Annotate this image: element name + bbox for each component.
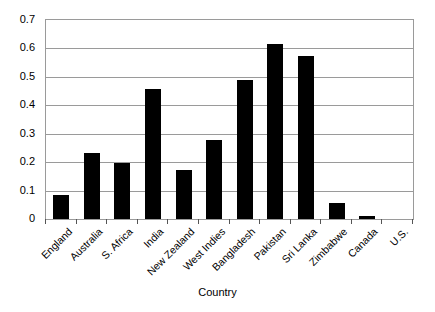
y-axis-tick-label: 0.4 [20, 99, 35, 110]
bar[interactable] [145, 89, 161, 219]
bar-slot [321, 20, 352, 219]
bar[interactable] [176, 170, 192, 219]
plot-area [45, 19, 414, 220]
y-axis-tick-labels: 0.70.60.50.40.30.20.10 [0, 0, 40, 312]
bar[interactable] [298, 56, 314, 219]
y-axis-tick-label: 0 [29, 213, 35, 224]
bar[interactable] [84, 153, 100, 219]
bar[interactable] [114, 163, 130, 219]
bar-slot [199, 20, 230, 219]
bar-slot [168, 20, 199, 219]
bar-slot [138, 20, 169, 219]
bar-slot [46, 20, 77, 219]
y-axis-tick-label: 0.5 [20, 70, 35, 81]
x-axis-category-label: U.S. [388, 226, 410, 248]
bar-chart: 0.70.60.50.40.30.20.10 EnglandAustraliaS… [0, 0, 435, 312]
bar-slot [107, 20, 138, 219]
y-axis-tick-label: 0.6 [20, 42, 35, 53]
bar-slot [77, 20, 108, 219]
x-axis-category-label: Canada [346, 226, 380, 260]
bar-series [46, 20, 413, 219]
bar-slot [291, 20, 322, 219]
bar[interactable] [206, 140, 222, 219]
x-axis-category-label: India [142, 226, 166, 250]
x-axis-title: Country [0, 286, 435, 298]
x-axis-category-labels: EnglandAustraliaS. AfricaIndiaNew Zealan… [45, 224, 414, 282]
bar-slot [352, 20, 383, 219]
bar[interactable] [329, 203, 345, 219]
bar-slot [260, 20, 291, 219]
bar[interactable] [237, 80, 253, 219]
y-axis-tick-label: 0.2 [20, 156, 35, 167]
x-axis-category-label: S. Africa [100, 226, 135, 261]
y-axis-tick-label: 0.7 [20, 14, 35, 25]
y-axis-tick-label: 0.1 [20, 184, 35, 195]
bar-slot [230, 20, 261, 219]
y-axis-tick-label: 0.3 [20, 127, 35, 138]
bar[interactable] [53, 195, 69, 219]
bar[interactable] [267, 44, 283, 219]
bar-slot [382, 20, 413, 219]
